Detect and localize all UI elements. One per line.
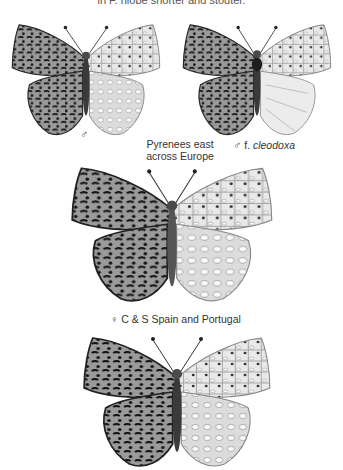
sex-symbol-male-1: ♂ xyxy=(80,128,88,140)
butterfly-illustration-female-spain xyxy=(62,160,282,305)
caption-range-line1: Pyrenees east xyxy=(140,138,220,150)
sex-symbol-female: ♀ xyxy=(110,313,118,325)
caption-female-range: ♀ C & S Spain and Portugal xyxy=(110,313,241,325)
form-name: cleodoxa xyxy=(253,139,295,151)
caption-range: Pyrenees east across Europe xyxy=(140,138,220,162)
butterfly-illustration-male-cleodoxa xyxy=(171,18,343,138)
form-prefix: f. xyxy=(244,139,250,151)
page-top-text: in F. niobe shorter and stouter. xyxy=(0,0,343,6)
butterfly-illustration-male-typical xyxy=(0,18,172,138)
butterfly-illustration-bottom xyxy=(72,330,282,470)
caption-female-range-text: C & S Spain and Portugal xyxy=(121,313,241,325)
sex-symbol-male-2: ♂ xyxy=(233,139,241,151)
caption-form-cleodoxa: ♂ f. cleodoxa xyxy=(233,139,295,151)
